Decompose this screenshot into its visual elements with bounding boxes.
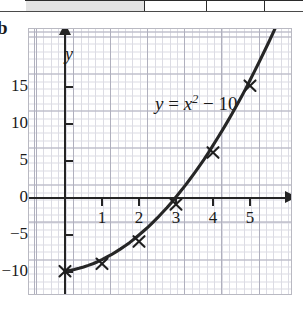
table-fragment: [0, 0, 303, 13]
y-axis-tick-label: 5: [0, 151, 28, 168]
curve-and-markers: [29, 29, 292, 295]
data-point-marker: [134, 236, 145, 247]
y-axis-tick-label: 10: [0, 114, 28, 131]
parabola-curve: [65, 28, 276, 271]
table-bottom-border: [0, 11, 303, 12]
plot-frame: 1 2 3 4 5 y x y = x2 − 10: [28, 28, 292, 295]
y-axis-tick-labels: 15 10 5 0 −5 −10: [0, 28, 28, 295]
y-axis-tick-label: −10: [0, 262, 28, 279]
table-header-cell-shading: [26, 1, 144, 11]
y-axis-tick-label: 15: [0, 77, 28, 94]
y-axis-tick-label: −5: [0, 225, 28, 242]
graph-figure: 1 2 3 4 5 y x y = x2 − 10: [0, 13, 303, 309]
data-point-marker: [171, 199, 182, 210]
y-axis-tick-label: 0: [0, 188, 28, 205]
